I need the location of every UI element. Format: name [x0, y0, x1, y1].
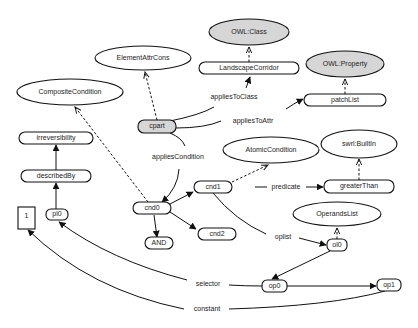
svg-text:CompositeCondition: CompositeCondition — [38, 88, 101, 96]
edge-selector-b — [59, 222, 187, 280]
edge-applies-condition-b — [162, 169, 179, 202]
edge-cnd1-atomic — [232, 165, 268, 182]
svg-text:cpart: cpart — [149, 122, 165, 130]
node-composite-condition: CompositeCondition — [17, 79, 123, 105]
node-cpart: cpart — [138, 120, 176, 133]
label-applies-condition: appliesCondition — [152, 153, 204, 161]
edge-cnd0-cnd2 — [170, 212, 196, 229]
svg-text:irreversibility: irreversibility — [37, 134, 76, 142]
svg-text:greaterThan: greaterThan — [340, 182, 378, 190]
label-selector: selector — [196, 280, 221, 287]
svg-text:ol0: ol0 — [332, 241, 341, 248]
svg-text:op1: op1 — [383, 281, 395, 289]
label-predicate: predicate — [272, 183, 301, 191]
node-pl0: pl0 — [46, 209, 68, 220]
node-irreversibility: irreversibility — [19, 132, 93, 144]
svg-text:LandscapeCorridor: LandscapeCorridor — [219, 64, 279, 72]
ontology-diagram: CompositeCondition ElementAttrCons OWL:C… — [0, 0, 418, 328]
edge-applies-to-attr-a — [176, 121, 221, 128]
edge-constant-a — [229, 291, 385, 309]
edge-cnd0-cnd1 — [170, 192, 193, 204]
node-owl-class: OWL:Class — [209, 19, 289, 45]
svg-text:OWL:Class: OWL:Class — [231, 28, 267, 35]
svg-text:swrl:BuiltIn: swrl:BuiltIn — [342, 140, 376, 147]
edge-selector-a — [229, 285, 262, 286]
node-literal-1: 1 — [18, 207, 35, 229]
label-constant: constant — [194, 305, 221, 312]
edge-applies-condition-a — [170, 133, 185, 146]
svg-text:describedBy: describedBy — [37, 172, 76, 180]
node-swrl-builtin: swrl:BuiltIn — [321, 130, 397, 158]
node-landscape-corridor: LandscapeCorridor — [199, 62, 299, 74]
svg-text:ElementAttrCons: ElementAttrCons — [117, 54, 170, 61]
edge-oplist-b — [299, 238, 326, 245]
node-patchlist: patchList — [304, 94, 386, 106]
node-and: AND — [145, 237, 173, 249]
edge-cnd0-composite — [75, 107, 148, 202]
svg-text:AND: AND — [152, 239, 167, 246]
svg-text:patchList: patchList — [331, 96, 359, 104]
edge-cnd0-and — [154, 215, 157, 237]
svg-text:cnd0: cnd0 — [144, 204, 159, 211]
label-applies-to-attr: appliesToAttr — [233, 117, 274, 125]
node-cnd1: cnd1 — [194, 181, 232, 193]
node-described-by: describedBy — [21, 170, 91, 182]
label-oplist: oplist — [275, 233, 291, 241]
node-cnd0: cnd0 — [133, 202, 171, 214]
svg-text:OWL:Property: OWL:Property — [323, 60, 368, 68]
edge-applies-to-class-b — [246, 77, 250, 88]
node-owl-property: OWL:Property — [306, 51, 384, 77]
svg-text:op0: op0 — [269, 282, 281, 290]
edge-applies-to-class-a — [170, 107, 214, 121]
label-applies-to-class: appliesToClass — [210, 93, 258, 101]
node-operands-list: OperandsList — [293, 202, 381, 226]
node-op0: op0 — [262, 280, 287, 292]
svg-text:OperandsList: OperandsList — [316, 210, 358, 218]
svg-text:cnd1: cnd1 — [205, 183, 220, 190]
edge-applies-to-attr-b — [286, 99, 303, 109]
svg-text:1: 1 — [25, 212, 29, 219]
node-element-attr-cons: ElementAttrCons — [95, 46, 191, 70]
node-atomic-condition: AtomicCondition — [223, 137, 319, 163]
svg-text:pl0: pl0 — [52, 210, 61, 218]
edge-ol0-op0 — [272, 251, 330, 279]
node-op1: op1 — [377, 279, 401, 291]
svg-text:cnd2: cnd2 — [209, 230, 224, 237]
svg-text:AtomicCondition: AtomicCondition — [246, 146, 297, 153]
edge-cpart-elemattr — [145, 72, 157, 120]
node-cnd2: cnd2 — [198, 228, 236, 240]
node-ol0: ol0 — [327, 239, 347, 251]
node-greater-than: greaterThan — [324, 180, 394, 193]
